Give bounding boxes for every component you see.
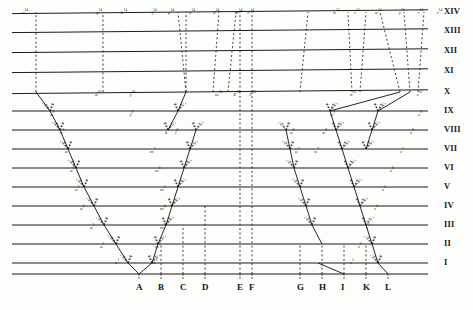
branch-a2-a3 — [104, 225, 116, 244]
generation-line-XIV — [12, 10, 428, 14]
generation-line-XI — [12, 69, 428, 73]
branch-a6-a7 — [68, 149, 76, 168]
stem-right-5 — [300, 12, 308, 92]
branch-a1-a2 — [116, 244, 128, 263]
stem-e14 — [213, 12, 219, 92]
fan-u5 — [300, 178, 302, 187]
fan-z2 — [372, 235, 374, 244]
darwin-divergence-diagram: IIIIIIIVVVIVIIVIIIIXXXIXIIXIIIXIV ABCDEF… — [0, 0, 473, 310]
branch-A-a1 — [128, 263, 139, 274]
fan-k8 — [166, 121, 168, 130]
branch-z9-z10 — [330, 92, 400, 111]
branch-f9-f10 — [178, 92, 186, 111]
fan-a9 — [50, 102, 52, 111]
stem-right-4 — [360, 12, 366, 92]
branch-u-a — [312, 225, 322, 244]
stem-right-3 — [348, 12, 352, 92]
stem-p14 — [178, 12, 186, 92]
fan-z1 — [378, 254, 380, 263]
lineage-branch-group — [36, 12, 424, 274]
fan-a3 — [104, 216, 106, 225]
fan-u3 — [312, 216, 314, 225]
fan-m4 — [169, 198, 172, 207]
fan-a2 — [116, 235, 118, 244]
generation-line-group — [12, 10, 428, 274]
branch-a5-a6 — [76, 168, 84, 187]
fan-a1 — [128, 254, 130, 263]
branch-a8-a9 — [50, 111, 60, 130]
fan-u8 — [286, 121, 288, 130]
stem-m14 — [228, 12, 236, 92]
fan-u4 — [306, 197, 308, 206]
fan-a7 — [68, 141, 71, 150]
stem-right-1 — [404, 12, 410, 92]
branch-z8-z9 — [330, 111, 336, 130]
branch-A-m1 — [139, 263, 152, 274]
fan-m3 — [163, 217, 166, 226]
branch-z4-z5 — [354, 187, 360, 206]
stem-right-2 — [418, 12, 424, 92]
branch-z7-z8 — [336, 130, 342, 149]
generation-line-X — [12, 90, 428, 94]
branch-a3-a4 — [94, 206, 104, 225]
fan-f9 — [176, 102, 178, 111]
fan-a5 — [84, 179, 87, 188]
stem-right-0 — [380, 12, 400, 92]
branch-a7-a8 — [60, 130, 68, 149]
fan-w8 — [369, 122, 372, 131]
diagram-canvas — [0, 0, 473, 310]
branch-z3-z4 — [360, 206, 366, 225]
fan-z9 — [327, 103, 330, 112]
fan-a6 — [76, 160, 79, 169]
branch-w9-w10 — [378, 92, 410, 111]
fan-m7 — [188, 140, 190, 149]
fan-a4 — [94, 197, 96, 206]
fan-m6 — [181, 160, 184, 169]
fan-a8 — [60, 122, 63, 131]
fan-m2 — [156, 235, 158, 244]
fan-u7 — [290, 140, 292, 149]
fan-m1 — [150, 254, 152, 263]
fan-u6 — [294, 159, 296, 168]
branch-m2-m3 — [158, 225, 166, 244]
fan-m8 — [194, 121, 196, 130]
generation-line-XII — [12, 49, 428, 53]
branch-a9-a10 — [36, 92, 50, 111]
branch-L-z1 — [378, 263, 388, 274]
generation-line-XIII — [12, 29, 428, 33]
fan-w9 — [375, 103, 378, 112]
branch-z5-z6 — [348, 168, 354, 187]
branch-z6-z7 — [342, 149, 348, 168]
branch-a4-a5 — [84, 187, 94, 206]
fan-w7 — [363, 141, 366, 150]
fan-m5 — [175, 179, 178, 188]
